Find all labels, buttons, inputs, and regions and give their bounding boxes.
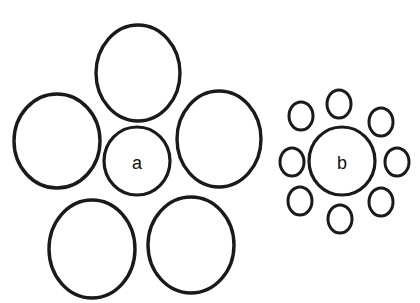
inducer-b-n [327, 90, 351, 118]
illusion-canvas: a b [0, 0, 420, 303]
inducer-a-bottom-right [148, 197, 234, 293]
panel-b-label: b [337, 153, 347, 173]
inducer-b-ne [369, 108, 393, 136]
inducer-b-se [369, 188, 393, 216]
inducer-a-bottom-left [49, 200, 135, 298]
inducer-b-sw [288, 187, 312, 215]
inducer-b-w [280, 148, 304, 176]
inducer-a-left [14, 94, 100, 188]
panel-b-group: b [280, 90, 409, 233]
inducer-b-s [328, 205, 352, 233]
inducer-b-nw [289, 102, 313, 130]
inducer-a-right [177, 91, 261, 187]
inducer-b-e [385, 148, 409, 176]
panel-a-label: a [132, 153, 143, 173]
ebbinghaus-illusion-figure: bb a b [0, 0, 420, 303]
inducer-a-top [96, 25, 180, 121]
